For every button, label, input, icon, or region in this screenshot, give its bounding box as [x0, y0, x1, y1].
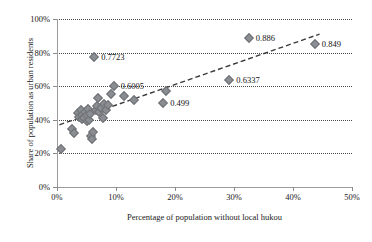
x-tick-label-10: 10% [96, 192, 136, 202]
y-axis-title: Share of population as urban residents [25, 18, 35, 188]
y-tick-20 [53, 153, 57, 154]
y-tick-100 [53, 19, 57, 20]
data-point [224, 76, 234, 86]
data-point [129, 95, 139, 105]
x-tick-label-40: 40% [273, 192, 313, 202]
point-label-0.886: 0.886 [256, 33, 275, 43]
data-point [244, 33, 254, 43]
data-point [158, 98, 168, 108]
gridline-y-60 [57, 86, 352, 87]
x-axis-title: Percentage of population without local h… [57, 212, 352, 222]
x-tick-label-30: 30% [214, 192, 254, 202]
point-label-0.499: 0.499 [170, 98, 189, 108]
scatter-chart: 0%20%40%60%80%100% 0%10%20%30%40%50% 0.7… [0, 0, 372, 242]
x-tick-0 [57, 187, 58, 191]
gridline-y-100 [57, 19, 352, 20]
y-tick-40 [53, 120, 57, 121]
gridline-y-20 [57, 153, 352, 154]
point-label-0.6337: 0.6337 [236, 75, 259, 85]
y-axis-line [57, 19, 58, 187]
point-label-0.7723: 0.7723 [101, 52, 124, 62]
x-tick-label-50: 50% [332, 192, 372, 202]
point-label-0.6005: 0.6005 [121, 81, 144, 91]
data-point [310, 39, 320, 49]
x-tick-label-20: 20% [155, 192, 195, 202]
point-label-0.849: 0.849 [322, 39, 341, 49]
data-point [89, 52, 99, 62]
x-tick-40 [293, 187, 294, 191]
x-tick-10 [116, 187, 117, 191]
x-tick-label-0: 0% [37, 192, 77, 202]
x-tick-50 [352, 187, 353, 191]
y-tick-60 [53, 86, 57, 87]
x-axis-line [57, 187, 352, 188]
x-tick-30 [234, 187, 235, 191]
data-point [106, 89, 116, 99]
data-point [119, 91, 129, 101]
x-tick-20 [175, 187, 176, 191]
y-tick-80 [53, 53, 57, 54]
trendline [0, 0, 372, 242]
data-point [98, 113, 108, 123]
